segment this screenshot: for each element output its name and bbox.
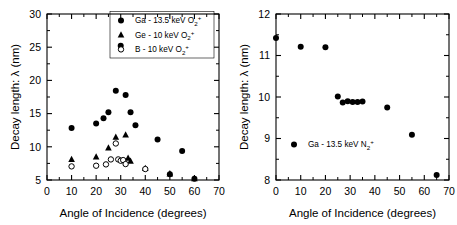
data-point bbox=[322, 44, 328, 50]
x-tick-label: 50 bbox=[394, 185, 406, 197]
y-tick-label: 25 bbox=[29, 41, 41, 53]
x-tick-label: 60 bbox=[189, 185, 201, 197]
legend-marker-3 bbox=[118, 47, 123, 52]
plot-frame bbox=[276, 14, 449, 180]
data-point bbox=[93, 121, 99, 127]
data-point bbox=[409, 132, 415, 138]
chart-panel-right: 01020304050607089101112Angle of Incidenc… bbox=[228, 0, 457, 225]
legend-label-2: Ge - 10 keV O2+ bbox=[135, 29, 195, 42]
y-axis-title: Decay length: λ (nm) bbox=[9, 44, 21, 150]
data-point bbox=[360, 99, 366, 105]
data-point bbox=[123, 92, 129, 98]
x-axis-title: Angle of Incidence (degrees) bbox=[289, 207, 436, 219]
data-point bbox=[103, 162, 108, 167]
plot-frame bbox=[47, 14, 219, 180]
y-tick-label: 12 bbox=[258, 8, 270, 20]
y-axis-title: Decay length: λ (nm) bbox=[238, 44, 250, 150]
data-point bbox=[298, 44, 304, 50]
y-tick-label: 11 bbox=[259, 49, 270, 61]
data-point bbox=[113, 88, 119, 94]
y-tick-label: 8 bbox=[264, 174, 270, 186]
data-point bbox=[143, 166, 148, 171]
y-tick-label: 15 bbox=[29, 107, 41, 119]
data-point bbox=[113, 141, 118, 146]
data-point bbox=[273, 35, 279, 41]
x-tick-label: 30 bbox=[115, 185, 127, 197]
x-axis-title: Angle of Incidence (degrees) bbox=[59, 207, 206, 219]
data-point bbox=[335, 94, 341, 100]
data-point bbox=[105, 109, 111, 115]
x-tick-label: 30 bbox=[344, 185, 356, 197]
x-tick-label: 70 bbox=[213, 185, 225, 197]
data-point bbox=[155, 136, 161, 142]
legend-marker-1 bbox=[291, 141, 297, 147]
data-point bbox=[132, 122, 138, 128]
figure-two-scatter-panels: 01020304050607051015202530Angle of Incid… bbox=[0, 0, 457, 225]
y-tick-label: 30 bbox=[29, 8, 41, 20]
y-tick-label: 10 bbox=[29, 141, 41, 153]
legend-label-1: Ga - 13.5 keV N2+ bbox=[308, 138, 374, 151]
data-point bbox=[434, 172, 440, 178]
data-point bbox=[69, 164, 74, 169]
x-tick-label: 20 bbox=[90, 185, 102, 197]
x-tick-label: 20 bbox=[320, 185, 332, 197]
scatter-plot-left: 01020304050607051015202530Angle of Incid… bbox=[0, 0, 228, 225]
x-tick-label: 0 bbox=[273, 185, 279, 197]
chart-panel-left: 01020304050607051015202530Angle of Incid… bbox=[0, 0, 228, 225]
data-point bbox=[101, 115, 107, 121]
data-point bbox=[93, 163, 98, 168]
x-tick-label: 70 bbox=[443, 185, 455, 197]
x-tick-label: 60 bbox=[418, 185, 430, 197]
y-tick-label: 10 bbox=[258, 91, 270, 103]
x-tick-label: 0 bbox=[44, 185, 50, 197]
x-tick-label: 40 bbox=[139, 185, 151, 197]
data-point bbox=[384, 104, 390, 110]
scatter-plot-right: 01020304050607089101112Angle of Incidenc… bbox=[228, 0, 457, 225]
data-point bbox=[179, 148, 185, 154]
x-tick-label: 10 bbox=[295, 185, 307, 197]
legend-label-1: Ga - 13.5 keV O2+ bbox=[135, 14, 202, 27]
x-tick-label: 50 bbox=[164, 185, 176, 197]
x-tick-label: 10 bbox=[66, 185, 78, 197]
legend-marker-1 bbox=[118, 17, 124, 23]
data-point bbox=[69, 125, 75, 131]
y-tick-label: 5 bbox=[35, 174, 41, 186]
data-point bbox=[108, 157, 113, 162]
x-tick-label: 40 bbox=[369, 185, 381, 197]
data-point bbox=[123, 161, 128, 166]
y-tick-label: 9 bbox=[264, 132, 270, 144]
data-point bbox=[128, 109, 134, 115]
legend-label-3: B - 10 keV O2+ bbox=[135, 43, 189, 56]
y-tick-label: 20 bbox=[29, 74, 41, 86]
